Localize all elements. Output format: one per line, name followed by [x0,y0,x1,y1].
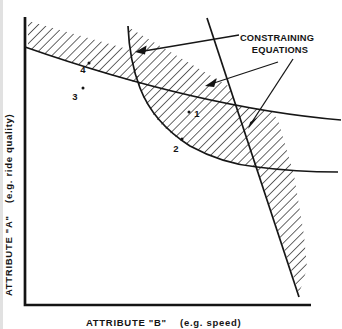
leader-line-2 [214,62,278,83]
attribute-tradeoff-diagram: CONSTRAINING EQUATIONS 1 2 3 4 ATTRIBUTE… [0,0,342,329]
hatch-region-right-of-line2 [236,106,307,293]
leader-line-1 [144,35,239,51]
x-axis-label: ATTRIBUTE "B" (e.g. speed) [86,317,241,328]
point-4-dot [88,62,91,65]
point-2-label: 2 [173,143,178,154]
point-1-label: 1 [194,108,200,119]
x-axis-label-main: ATTRIBUTE "B" [86,317,167,328]
constraining-equations-label-line2: EQUATIONS [252,45,308,55]
point-4-label: 4 [80,64,86,75]
y-axis-label-main: ATTRIBUTE "A" [3,215,14,296]
y-axis-label-sub: (e.g. ride quality) [3,114,14,203]
point-1-dot [188,111,191,114]
point-3-label: 3 [72,91,77,102]
hatch-region-lens [128,27,257,167]
constraining-equations-label-line1: CONSTRAINING [240,33,314,43]
point-3-dot [82,87,85,90]
point-2-dot [181,138,184,141]
x-axis-label-sub: (e.g. speed) [180,317,241,328]
y-axis-label: ATTRIBUTE "A" (e.g. ride quality) [3,114,14,296]
